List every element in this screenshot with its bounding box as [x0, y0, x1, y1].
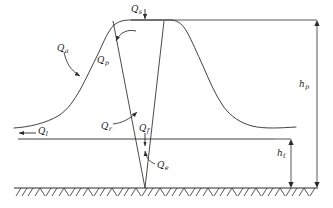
label-h-t: ht — [277, 149, 285, 158]
q-p-leader — [116, 30, 136, 41]
label-q-p: Qp — [97, 56, 109, 65]
q-a-leader — [64, 52, 80, 76]
mound-profile-curve — [14, 20, 296, 128]
ground-hatching — [16, 188, 315, 196]
label-q-r: Qr — [101, 122, 112, 131]
h-p-dimension — [314, 20, 319, 188]
wedge-left-leg — [113, 21, 145, 188]
q-e-leader — [145, 151, 155, 164]
diagram-vector-layer — [0, 0, 333, 208]
label-h-p: hp — [299, 80, 309, 89]
q-r-leader — [113, 112, 137, 124]
label-q-e: Qe — [157, 161, 168, 170]
label-q-l: Ql — [38, 127, 47, 136]
label-q-f: Qf — [139, 124, 149, 133]
h-t-dimension — [275, 139, 294, 188]
label-q-s: Qs — [131, 5, 142, 14]
diagram-canvas: Qs Qa Qp Qr Qf Qe Ql hp ht — [0, 0, 333, 208]
label-q-a: Qa — [57, 44, 68, 53]
